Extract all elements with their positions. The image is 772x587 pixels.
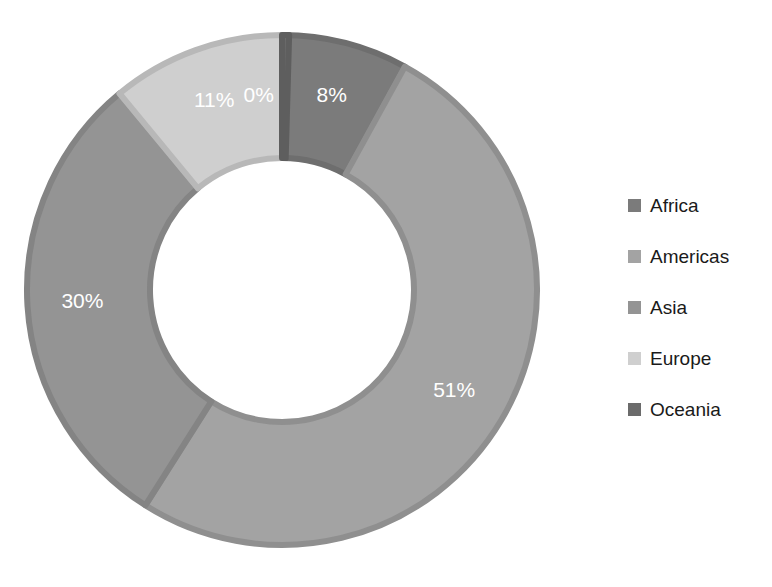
donut-slices-group (27, 35, 537, 545)
slice-data-label-oceania: 0% (244, 83, 274, 106)
legend-item-label: Asia (650, 298, 687, 317)
legend-item-label: Europe (650, 349, 711, 368)
slice-data-label-europe: 11% (194, 88, 234, 111)
legend-swatch-icon (628, 250, 641, 263)
chart-legend: AfricaAmericasAsiaEuropeOceania (628, 180, 768, 435)
donut-slice-oceania[interactable] (282, 35, 289, 158)
legend-item-asia[interactable]: Asia (628, 282, 768, 333)
donut-chart: 8%51%30%11%0% AfricaAmericasAsiaEuropeOc… (0, 0, 772, 587)
legend-item-africa[interactable]: Africa (628, 180, 768, 231)
slice-data-label-americas: 51% (433, 378, 475, 401)
slice-data-label-asia: 30% (61, 289, 103, 312)
chart-plot-area: 8%51%30%11%0% (0, 0, 600, 587)
legend-item-oceania[interactable]: Oceania (628, 384, 768, 435)
legend-swatch-icon (628, 301, 641, 314)
legend-item-americas[interactable]: Americas (628, 231, 768, 282)
legend-item-label: Africa (650, 196, 699, 215)
slice-data-label-africa: 8% (317, 83, 347, 106)
legend-item-europe[interactable]: Europe (628, 333, 768, 384)
legend-item-label: Oceania (650, 400, 721, 419)
legend-item-label: Americas (650, 247, 729, 266)
legend-swatch-icon (628, 199, 641, 212)
legend-swatch-icon (628, 403, 641, 416)
legend-swatch-icon (628, 352, 641, 365)
donut-svg: 8%51%30%11%0% (0, 0, 600, 587)
